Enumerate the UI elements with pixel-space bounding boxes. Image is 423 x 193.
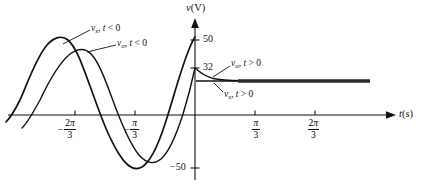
x-axis-title: t(s) (399, 109, 413, 120)
minus-sign: − (58, 124, 64, 136)
x-tick-label-pi-over-3: π 3 (251, 119, 260, 141)
y-axis-title-unit: (V) (191, 2, 206, 13)
y-axis-title: v(V) (186, 3, 205, 14)
pi-symbol: π (70, 118, 75, 128)
pi-symbol: π (132, 118, 137, 128)
fraction-denominator: 3 (64, 129, 76, 140)
annotation-value: 0 (256, 58, 261, 68)
x-tick-label-neg-pi-over-3: − π 3 (124, 119, 139, 141)
pi-symbol: π (253, 118, 258, 128)
leader-vo-negative (87, 45, 116, 52)
plot-canvas (0, 0, 423, 193)
curve-vo-negative (22, 50, 195, 163)
y-tick-label-32: 32 (203, 62, 213, 72)
x-tick-label-2pi-over-3: 2π 3 (307, 119, 319, 141)
fraction: 2π 3 (64, 119, 76, 141)
x-axis-arrowhead (386, 111, 396, 119)
fraction-numerator: π (131, 119, 138, 129)
fraction-denominator: 3 (252, 129, 261, 140)
y-axis-arrowhead (191, 18, 199, 28)
x-axis-title-unit: (s) (402, 108, 413, 119)
annotation-vs-negative: vs, t < 0 (91, 24, 120, 35)
fraction-denominator: 3 (130, 129, 139, 140)
fraction: π 3 (130, 119, 139, 141)
fraction: π 3 (252, 119, 261, 141)
fraction-numerator: π (252, 119, 259, 129)
leader-vo-positive (213, 66, 230, 77)
annotation-value: 0 (248, 89, 253, 99)
annotation-vs-positive: vs, t > 0 (224, 90, 253, 101)
minus-sign: − (124, 124, 130, 136)
x-tick-label-neg-2pi-over-3: − 2π 3 (58, 119, 76, 141)
leader-vs-positive (214, 83, 223, 92)
fraction-denominator: 3 (308, 129, 320, 140)
y-tick-label-50: 50 (203, 34, 213, 44)
fraction-numerator: 2π (308, 119, 320, 129)
annotation-vo-negative: vo, t < 0 (117, 39, 147, 50)
fraction: 2π 3 (308, 119, 320, 141)
voltage-time-plot-figure: v(V) t(s) 50 32 −50 − 2π 3 − π 3 π 3 2π … (0, 0, 423, 193)
pi-symbol: π (313, 118, 318, 128)
annotation-value: 0 (142, 38, 147, 48)
curve-vs-negative (6, 37, 195, 168)
fraction-numerator: 2π (64, 119, 76, 129)
annotation-value: 0 (115, 23, 120, 33)
y-tick-label-neg-50: −50 (170, 162, 186, 172)
annotation-vo-positive: vo, t > 0 (231, 59, 261, 70)
leader-vs-negative (63, 30, 90, 44)
